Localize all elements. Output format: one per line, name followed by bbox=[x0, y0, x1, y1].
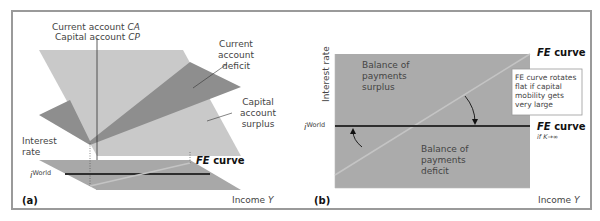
capital-surplus-label-2: account bbox=[240, 108, 276, 118]
annotation-line-3: mobility gets bbox=[515, 91, 564, 100]
panel-b-tag: (b) bbox=[314, 195, 330, 206]
income-label-a: Income Y bbox=[232, 195, 275, 205]
interest-rate-label-a-1: Interest bbox=[22, 136, 57, 146]
i-world-label-b: iWorld bbox=[304, 121, 325, 132]
current-deficit-label-3: deficit bbox=[222, 61, 250, 71]
bop-deficit-label-1: Balance of bbox=[421, 144, 469, 154]
income-label-b: Income Y bbox=[538, 195, 581, 205]
interest-rate-label-a-2: rate bbox=[22, 147, 41, 157]
ca-axis-label: Current account CA bbox=[52, 22, 140, 32]
panel-b: FE curve rotates flat if capital mobilit… bbox=[304, 46, 586, 206]
capital-surplus-label-3: surplus bbox=[242, 119, 275, 129]
cp-axis-label: Capital account CP bbox=[55, 32, 140, 42]
fe-curve-label-top: FE curve bbox=[537, 47, 586, 58]
bop-deficit-label-3: deficit bbox=[421, 166, 449, 176]
i-world-label-a: iWorld bbox=[30, 169, 51, 180]
current-deficit-label-1: Current bbox=[219, 39, 253, 49]
bop-surplus-label-1: Balance of bbox=[362, 60, 410, 70]
fe-curve-flat-condition: if K→∞ bbox=[537, 133, 558, 141]
bop-surplus-label-3: surplus bbox=[362, 82, 395, 92]
annotation-line-4: very large bbox=[515, 100, 553, 109]
fe-curve-label-a: FE curve bbox=[196, 155, 245, 166]
annotation-line-2: flat if capital bbox=[515, 82, 562, 91]
fe-curve-label-flat: FE curve bbox=[537, 121, 586, 132]
interest-rate-label-b: Interest rate bbox=[321, 46, 331, 102]
annotation-line-1: FE curve rotates bbox=[515, 73, 576, 82]
panel-a: Current account CA Capital account CP Cu… bbox=[22, 22, 276, 206]
bop-deficit-label-2: payments bbox=[421, 155, 466, 165]
current-deficit-label-2: account bbox=[218, 50, 254, 60]
panel-a-tag: (a) bbox=[22, 195, 38, 206]
figure-svg: Current account CA Capital account CP Cu… bbox=[0, 0, 600, 221]
capital-surplus-label-1: Capital bbox=[242, 97, 274, 107]
bop-surplus-label-2: payments bbox=[362, 71, 407, 81]
